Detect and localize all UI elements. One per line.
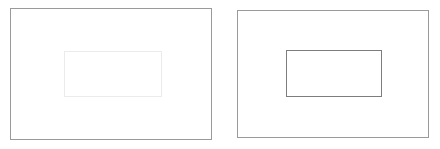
right-panel[interactable]	[237, 10, 429, 138]
left-panel-inner-rectangle[interactable]	[64, 51, 162, 97]
left-panel[interactable]	[10, 8, 212, 140]
figure-canvas	[0, 0, 440, 149]
right-panel-inner-rectangle[interactable]	[286, 50, 382, 97]
